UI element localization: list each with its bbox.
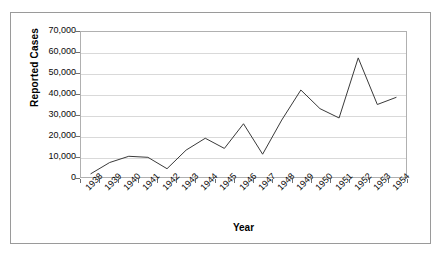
y-axis-tick-label: 20,000 — [30, 131, 76, 140]
y-axis-tick-label: 70,000 — [30, 26, 76, 35]
y-axis-tick-labels: 010,00020,00030,00040,00050,00060,00070,… — [26, 0, 76, 256]
y-axis-tick-label: 40,000 — [30, 89, 76, 98]
y-axis-tick-label: 50,000 — [30, 68, 76, 77]
y-axis-tick-label: 30,000 — [30, 110, 76, 119]
y-axis-tick-label: 10,000 — [30, 152, 76, 161]
series-line-reported-cases — [81, 32, 406, 177]
series-polyline — [91, 58, 397, 174]
plot-area — [80, 31, 407, 178]
y-axis-tick-label: 0 — [30, 173, 76, 182]
chart-figure: Reported Cases 010,00020,00030,00040,000… — [0, 0, 441, 256]
x-axis-title: Year — [80, 222, 407, 233]
x-axis-tick-mark — [80, 179, 81, 183]
y-axis-tick-label: 60,000 — [30, 47, 76, 56]
